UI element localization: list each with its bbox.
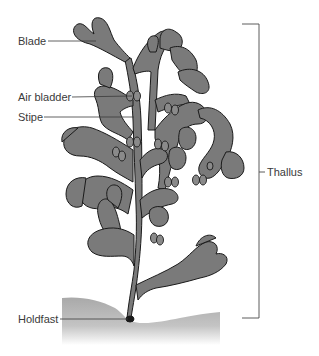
air-bladder-label: Air bladder (18, 91, 71, 103)
seaweed-diagram (0, 0, 319, 356)
thallus-bracket (242, 24, 265, 318)
blade (74, 18, 130, 62)
substrate (62, 297, 220, 345)
thallus-fronds (62, 18, 244, 322)
stipe-label: Stipe (18, 111, 43, 123)
thallus-label: Thallus (267, 166, 302, 178)
blade-label: Blade (18, 35, 46, 47)
holdfast-label: Holdfast (18, 313, 58, 325)
